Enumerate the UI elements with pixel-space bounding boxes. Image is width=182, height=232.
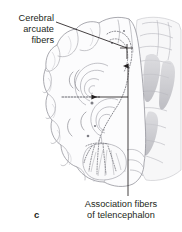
label-arcuate-line2: arcuate bbox=[0, 24, 54, 35]
label-association-line2: of telencephalon bbox=[62, 210, 180, 221]
label-association-line1: Association fibers bbox=[62, 199, 180, 210]
label-arcuate-line3: fibers bbox=[0, 35, 54, 46]
label-cerebral-arcuate-fibers: Cerebral arcuate fibers bbox=[0, 13, 54, 47]
figure-panel-letter: c bbox=[34, 209, 39, 220]
label-association-fibers-of-telencephalon: Association fibers of telencephalon bbox=[62, 199, 180, 221]
label-arcuate-line1: Cerebral bbox=[0, 13, 54, 24]
